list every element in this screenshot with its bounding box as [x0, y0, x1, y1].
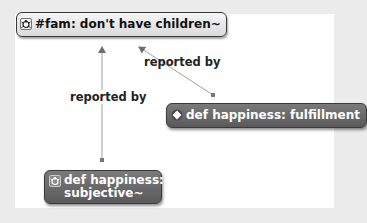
node-fulfillment-label: def happiness: fulfillment: [186, 108, 360, 122]
node-fam-label: #fam: don't have children~: [35, 17, 221, 31]
edge-label-fulfillment-fam: reported by: [143, 55, 222, 69]
diamond-icon: [171, 109, 183, 121]
node-subjective-label: def happiness: is subjective~: [64, 174, 179, 200]
node-subjective-label-line2: subjective~: [64, 187, 179, 200]
node-subjective[interactable]: def happiness: is subjective~: [44, 170, 162, 204]
node-fulfillment[interactable]: def happiness: fulfillment: [166, 103, 367, 128]
node-fam[interactable]: #fam: don't have children~: [16, 12, 227, 37]
edge-label-subjective-fam: reported by: [69, 90, 148, 104]
bug-icon: [49, 175, 61, 187]
bug-icon: [20, 18, 32, 30]
